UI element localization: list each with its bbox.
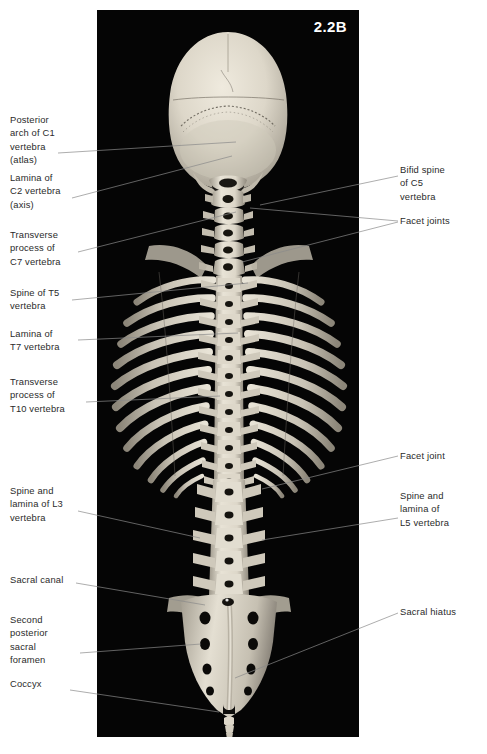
skull xyxy=(169,32,288,196)
label-transverse-t10: Transverse process of T10 vertebra xyxy=(10,375,96,415)
label-spine-lamina-l5: Spine and lamina of L5 vertebra xyxy=(400,489,486,529)
label-spine-t5: Spine of T5 vertebra xyxy=(10,286,96,313)
figure-number: 2.2B xyxy=(314,18,347,35)
label-bifid-spine-c5: Bifid spine of C5 vertebra xyxy=(400,163,486,203)
label-spine-lamina-l3: Spine and lamina of L3 vertebra xyxy=(10,484,96,524)
label-coccyx: Coccyx xyxy=(10,677,96,690)
label-sacral-hiatus: Sacral hiatus xyxy=(400,605,486,618)
label-lamina-c2: Lamina of C2 vertebra (axis) xyxy=(10,171,96,211)
skeleton-illustration xyxy=(97,10,359,737)
label-lamina-t7: Lamina of T7 vertebra xyxy=(10,327,96,354)
label-transverse-c7: Transverse process of C7 vertebra xyxy=(10,228,96,268)
anatomical-figure: 2.2B Posterior arch of C1 vertebra (atla… xyxy=(0,0,487,754)
label-sacral-canal: Sacral canal xyxy=(10,573,96,586)
label-second-foramen: Second posterior sacral foramen xyxy=(10,613,96,667)
label-facet-joint: Facet joint xyxy=(400,449,486,462)
label-facet-joints: Facet joints xyxy=(400,214,486,227)
label-posterior-arch-c1: Posterior arch of C1 vertebra (atlas) xyxy=(10,113,96,167)
skeleton-photograph: 2.2B xyxy=(97,10,359,737)
